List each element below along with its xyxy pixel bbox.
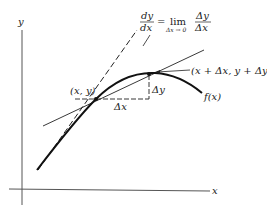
p1-label: (x, y) <box>70 85 96 96</box>
formula-lhs-num: dy <box>141 10 153 21</box>
curve-label: f(x) <box>203 91 221 102</box>
x-axis-label: x <box>212 185 218 196</box>
p2-label: (x + Δx, y + Δy) <box>191 65 267 76</box>
derivative-diagram: y x (x, y) (x + Δx, y + Δy) Δx Δy f(x) d… <box>0 0 267 210</box>
formula-leader <box>143 35 150 46</box>
y-axis-label: y <box>17 16 24 27</box>
secant-line <box>43 50 204 126</box>
formula-equals: = <box>157 16 165 27</box>
curve-fx <box>37 73 202 170</box>
formula-rhs-den: Δx <box>194 22 208 33</box>
derivative-formula: dy dx = lim Δx → 0 Δy Δx <box>140 10 211 33</box>
delta-y-label: Δy <box>151 84 165 95</box>
formula-lhs-den: dx <box>140 22 152 33</box>
formula-lim-sub: Δx → 0 <box>165 26 187 33</box>
point-x-y <box>94 97 98 101</box>
formula-rhs-num: Δy <box>195 10 209 21</box>
delta-x-label: Δx <box>113 101 127 112</box>
x-axis <box>9 189 210 191</box>
point-x-dx-y-dy <box>147 72 151 76</box>
